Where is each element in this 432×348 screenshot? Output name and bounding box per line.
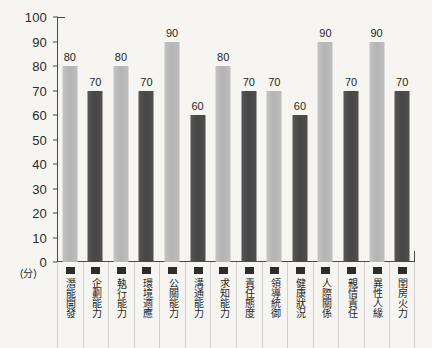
bar-value-label: 80 bbox=[64, 52, 76, 63]
bar[interactable] bbox=[165, 42, 180, 263]
bar[interactable] bbox=[216, 66, 231, 262]
legend-swatch-icon bbox=[66, 267, 75, 274]
legend-swatch-icon bbox=[142, 267, 151, 274]
legend-swatch-icon bbox=[270, 267, 279, 274]
legend-swatch-icon bbox=[347, 267, 356, 274]
category-label-cell[interactable]: 人際關係 bbox=[313, 262, 339, 348]
bar-value-label: 90 bbox=[319, 28, 331, 39]
category-label-text: 人際關係 bbox=[320, 278, 331, 318]
y-axis-tick-label: 90 bbox=[1, 35, 47, 48]
legend-swatch-icon bbox=[168, 267, 177, 274]
bar[interactable] bbox=[395, 91, 410, 263]
category-label-cell[interactable]: 環境適應 bbox=[134, 262, 160, 348]
plot-area: 8070807090608070706090709070 bbox=[57, 17, 415, 262]
category-labels-row: 潛能開發企劃能力執行能力環境適應公關能力溝通能力求知能力責任態度領導統御健康狀況… bbox=[57, 262, 415, 348]
bar-value-label: 70 bbox=[140, 77, 152, 88]
legend-swatch-icon bbox=[321, 267, 330, 274]
category-label-text: 環境適應 bbox=[141, 278, 152, 318]
bar-value-label: 60 bbox=[294, 101, 306, 112]
category-label-cell[interactable]: 潛能開發 bbox=[57, 262, 83, 348]
category-label-text: 責任態度 bbox=[244, 278, 255, 318]
y-axis-unit-label: (分) bbox=[20, 269, 37, 279]
bar-slot: 90 bbox=[364, 17, 390, 262]
bar-slot: 70 bbox=[262, 17, 288, 262]
bar[interactable] bbox=[292, 115, 307, 262]
bar[interactable] bbox=[241, 91, 256, 263]
bar-slot: 90 bbox=[313, 17, 339, 262]
category-label-cell[interactable]: 執行能力 bbox=[108, 262, 134, 348]
y-axis-tick-label: 20 bbox=[1, 207, 47, 220]
bar[interactable] bbox=[88, 91, 103, 263]
bar-slot: 90 bbox=[159, 17, 185, 262]
y-axis: 1009080706050403020100 bbox=[0, 10, 57, 268]
bar-value-label: 60 bbox=[192, 101, 204, 112]
y-axis-tick-label: 40 bbox=[1, 158, 47, 171]
y-axis-tick-label: 30 bbox=[1, 182, 47, 195]
category-label-text: 閨房火力 bbox=[397, 278, 408, 318]
bar-slot: 80 bbox=[210, 17, 236, 262]
y-axis-tick-label: 50 bbox=[1, 133, 47, 146]
legend-swatch-icon bbox=[296, 267, 305, 274]
category-label-cell[interactable]: 健康狀況 bbox=[287, 262, 313, 348]
y-axis-tick-label: 80 bbox=[1, 60, 47, 73]
bar-chart: 1009080706050403020100 (分) 8070807090608… bbox=[0, 0, 432, 348]
bar-value-label: 90 bbox=[166, 28, 178, 39]
bar-slot: 70 bbox=[338, 17, 364, 262]
category-label-text: 溝通能力 bbox=[193, 278, 204, 318]
bar-slot: 70 bbox=[236, 17, 262, 262]
bar-slot: 70 bbox=[134, 17, 160, 262]
bar[interactable] bbox=[62, 66, 77, 262]
bar-slot: 70 bbox=[389, 17, 415, 262]
category-label-cell[interactable]: 公關能力 bbox=[159, 262, 185, 348]
category-label-cell[interactable]: 異性人緣 bbox=[364, 262, 390, 348]
y-axis-tick-label: 60 bbox=[1, 109, 47, 122]
bar-slot: 60 bbox=[185, 17, 211, 262]
legend-swatch-icon bbox=[91, 267, 100, 274]
legend-swatch-icon bbox=[117, 267, 126, 274]
bar-value-label: 70 bbox=[345, 77, 357, 88]
bar[interactable] bbox=[113, 66, 128, 262]
bar[interactable] bbox=[369, 42, 384, 263]
bar[interactable] bbox=[190, 115, 205, 262]
bar[interactable] bbox=[139, 91, 154, 263]
legend-swatch-icon bbox=[194, 267, 203, 274]
bar-value-label: 70 bbox=[243, 77, 255, 88]
category-label-cell[interactable]: 溝通能力 bbox=[185, 262, 211, 348]
category-label-cell[interactable]: 閨房火力 bbox=[389, 262, 415, 348]
category-label-cell[interactable]: 求知能力 bbox=[210, 262, 236, 348]
bar[interactable] bbox=[344, 91, 359, 263]
y-axis-tick-label: 10 bbox=[1, 231, 47, 244]
category-label-text: 企劃能力 bbox=[90, 278, 101, 318]
y-axis-tick-label: 0 bbox=[1, 256, 47, 269]
y-axis-tick-label: 100 bbox=[1, 11, 47, 24]
category-label-text: 親情責任 bbox=[346, 278, 357, 318]
category-label-cell[interactable]: 親情責任 bbox=[338, 262, 364, 348]
category-label-text: 求知能力 bbox=[218, 278, 229, 318]
legend-swatch-icon bbox=[219, 267, 228, 274]
category-label-cell[interactable]: 責任態度 bbox=[236, 262, 262, 348]
category-label-text: 領導統御 bbox=[269, 278, 280, 318]
bar-slot: 80 bbox=[57, 17, 83, 262]
bar-value-label: 80 bbox=[217, 52, 229, 63]
bar-value-label: 70 bbox=[268, 77, 280, 88]
category-label-text: 異性人緣 bbox=[372, 278, 383, 318]
category-label-text: 執行能力 bbox=[116, 278, 127, 318]
legend-swatch-icon bbox=[373, 267, 382, 274]
category-label-text: 公關能力 bbox=[167, 278, 178, 318]
bar-slot: 70 bbox=[83, 17, 109, 262]
category-label-text: 健康狀況 bbox=[295, 278, 306, 318]
bar-value-label: 70 bbox=[89, 77, 101, 88]
bar-slot: 60 bbox=[287, 17, 313, 262]
bar-slot: 80 bbox=[108, 17, 134, 262]
category-label-text: 潛能開發 bbox=[65, 278, 76, 318]
legend-swatch-icon bbox=[245, 267, 254, 274]
bar[interactable] bbox=[267, 91, 282, 263]
legend-swatch-icon bbox=[398, 267, 407, 274]
bar[interactable] bbox=[318, 42, 333, 263]
bar-value-label: 70 bbox=[396, 77, 408, 88]
category-label-cell[interactable]: 領導統御 bbox=[262, 262, 288, 348]
bar-value-label: 80 bbox=[115, 52, 127, 63]
y-axis-tick-label: 70 bbox=[1, 84, 47, 97]
bar-value-label: 90 bbox=[371, 28, 383, 39]
category-label-cell[interactable]: 企劃能力 bbox=[83, 262, 109, 348]
